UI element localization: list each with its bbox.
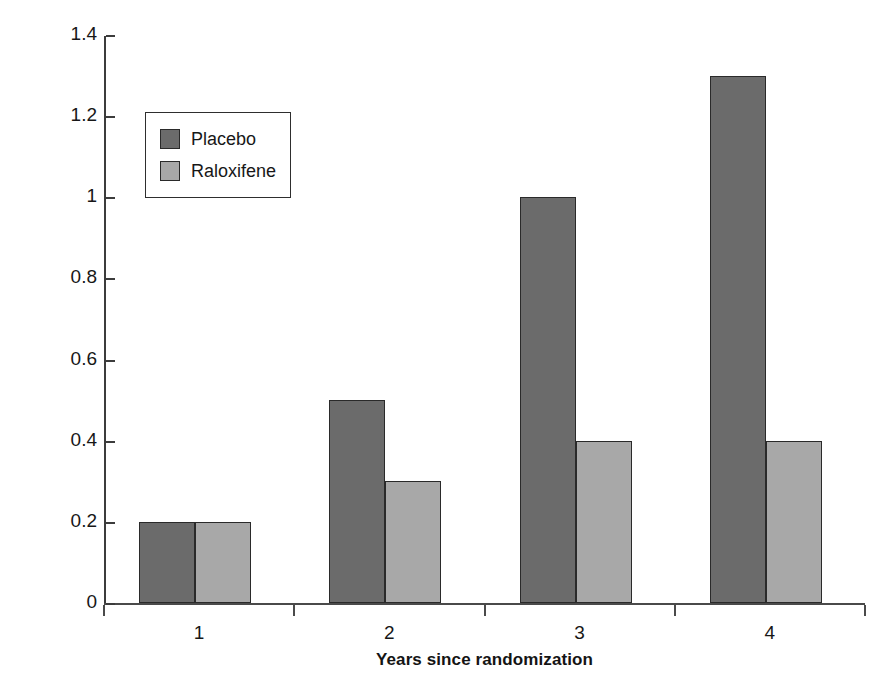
x-axis-title: Years since randomization <box>104 650 865 670</box>
x-axis-tick <box>293 605 295 616</box>
x-axis-tick-label: 3 <box>550 622 610 644</box>
bar-raloxifene-year-1 <box>195 522 251 603</box>
y-axis-tick-label: 0.2 <box>71 511 97 531</box>
y-axis-tick: 0.6 <box>106 360 115 362</box>
legend-item-label: Raloxifene <box>191 161 276 182</box>
y-axis-tick: 0.2 <box>106 522 115 524</box>
legend-swatch-icon <box>160 129 180 149</box>
x-axis-tick-label: 4 <box>740 622 800 644</box>
legend-item: Placebo <box>160 123 290 155</box>
x-axis-tick <box>674 605 676 616</box>
x-axis-tick <box>103 605 105 616</box>
y-axis-tick-label: 1.2 <box>71 105 97 125</box>
y-axis-tick-label: 1 <box>86 186 97 206</box>
y-axis-tick: 1.2 <box>106 116 115 118</box>
y-axis-tick-label: 1.4 <box>71 24 97 44</box>
legend-item: Raloxifene <box>160 155 290 187</box>
x-axis-tick <box>864 605 866 616</box>
x-axis-tick <box>484 605 486 616</box>
x-axis-tick-label: 2 <box>359 622 419 644</box>
y-axis-tick-label: 0 <box>86 592 97 612</box>
bar-raloxifene-year-4 <box>766 441 822 603</box>
y-axis-tick: 1.4 <box>106 35 115 37</box>
bar-placebo-year-3 <box>520 197 576 603</box>
bar-placebo-year-1 <box>139 522 195 603</box>
y-axis-tick-label: 0.4 <box>71 430 97 450</box>
y-axis-tick: 0.4 <box>106 441 115 443</box>
y-axis-tick-label: 0.6 <box>71 349 97 369</box>
x-axis-tick-label: 1 <box>169 622 229 644</box>
bar-chart-figure: Percent of randomized patients 00.20.40.… <box>0 0 889 688</box>
bar-placebo-year-4 <box>710 76 766 603</box>
y-axis-tick-label: 0.8 <box>71 267 97 287</box>
y-axis-tick: 0 <box>106 603 115 605</box>
legend-swatch-icon <box>160 161 180 181</box>
legend-item-label: Placebo <box>191 129 256 150</box>
bar-placebo-year-2 <box>329 400 385 603</box>
y-axis-line <box>104 36 106 604</box>
chart-legend: PlaceboRaloxifene <box>145 112 291 198</box>
bar-raloxifene-year-3 <box>576 441 632 603</box>
y-axis-tick: 1 <box>106 197 115 199</box>
y-axis-tick: 0.8 <box>106 278 115 280</box>
bar-raloxifene-year-2 <box>385 481 441 603</box>
